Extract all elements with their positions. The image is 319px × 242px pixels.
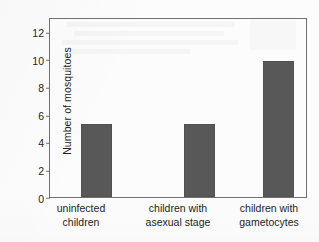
y-axis-tick-label: 4 bbox=[38, 138, 46, 149]
bar-uninfected-children bbox=[81, 124, 112, 197]
bar-chart-figure: Number of mosquitoes 0 2 4 6 8 10 12 bbox=[0, 0, 319, 242]
y-axis-tick-mark bbox=[46, 171, 50, 172]
y-axis-tick-mark bbox=[46, 198, 50, 199]
y-axis-tick-2: 2 bbox=[38, 166, 50, 177]
category-label-line: gametocytes bbox=[224, 216, 314, 230]
y-axis-tick-mark bbox=[46, 60, 50, 61]
y-axis-tick-label: 12 bbox=[32, 28, 46, 39]
plot-area: Number of mosquitoes 0 2 4 6 8 10 12 bbox=[49, 18, 307, 198]
x-axis-category-label-children-with-asexual-stage: children with asexual stage bbox=[134, 202, 222, 229]
category-label-line: uninfected bbox=[40, 202, 122, 216]
category-label-line: children with bbox=[224, 202, 314, 216]
y-axis-tick-mark bbox=[46, 33, 50, 34]
y-axis-tick-mark bbox=[46, 115, 50, 116]
y-axis-tick-label: 2 bbox=[38, 166, 46, 177]
y-axis-tick-label: 6 bbox=[38, 111, 46, 122]
y-axis-tick-label: 10 bbox=[32, 55, 46, 66]
y-axis-tick-12: 12 bbox=[32, 28, 50, 39]
y-axis-tick-8: 8 bbox=[38, 83, 50, 94]
y-axis-tick-mark bbox=[46, 143, 50, 144]
category-label-line: children bbox=[40, 216, 122, 230]
y-axis-tick-4: 4 bbox=[38, 138, 50, 149]
y-axis-label: Number of mosquitoes bbox=[61, 6, 73, 196]
y-axis-tick-6: 6 bbox=[38, 111, 50, 122]
y-axis-tick-label: 8 bbox=[38, 83, 46, 94]
category-label-line: children with bbox=[134, 202, 222, 216]
y-axis-tick-10: 10 bbox=[32, 55, 50, 66]
x-axis-category-label-children-with-gametocytes: children with gametocytes bbox=[224, 202, 314, 229]
x-axis-category-label-uninfected-children: uninfected children bbox=[40, 202, 122, 229]
y-axis-tick-mark bbox=[46, 88, 50, 89]
bar-children-with-asexual-stage bbox=[184, 124, 215, 197]
bar-children-with-gametocytes bbox=[263, 61, 294, 197]
category-label-line: asexual stage bbox=[134, 216, 222, 230]
